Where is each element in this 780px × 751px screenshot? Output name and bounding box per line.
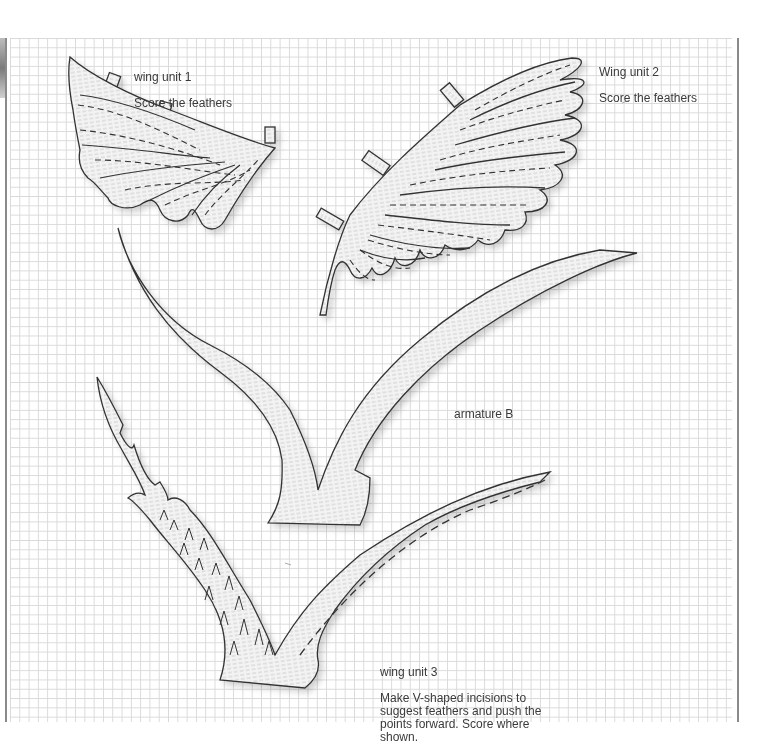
wing-unit-1-label: wing unit 1 Score the feathers: [134, 58, 232, 123]
wing-unit-3-note: Make V-shaped incisions to suggest feath…: [380, 692, 541, 744]
wing-unit-2-label: Wing unit 2 Score the feathers: [599, 53, 697, 118]
wing-unit-1-title: wing unit 1: [134, 71, 232, 84]
wing-unit-3-label: wing unit 3 Make V-shaped incisions to s…: [380, 653, 541, 751]
wing-unit-2-title: Wing unit 2: [599, 66, 697, 79]
armature-b-label: armature B: [454, 395, 513, 434]
wing-unit-2-note: Score the feathers: [599, 92, 697, 105]
wing-unit-3-title: wing unit 3: [380, 666, 541, 679]
wing-unit-1-note: Score the feathers: [134, 97, 232, 110]
armature-b-title: armature B: [454, 408, 513, 421]
